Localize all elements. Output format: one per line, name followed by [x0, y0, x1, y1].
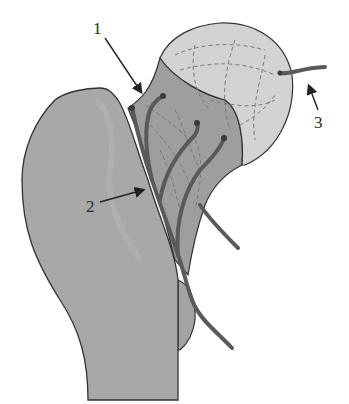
femur-diagram: 1 2 3: [0, 0, 349, 404]
arrow-1: [105, 38, 141, 92]
ligamentum-vessel-endpoint: [278, 71, 283, 76]
label-3: 3: [314, 113, 323, 132]
label-1: 1: [93, 19, 102, 38]
lesser-trochanter: [178, 280, 195, 350]
arrow-3: [309, 86, 318, 110]
label-2: 2: [86, 197, 95, 216]
